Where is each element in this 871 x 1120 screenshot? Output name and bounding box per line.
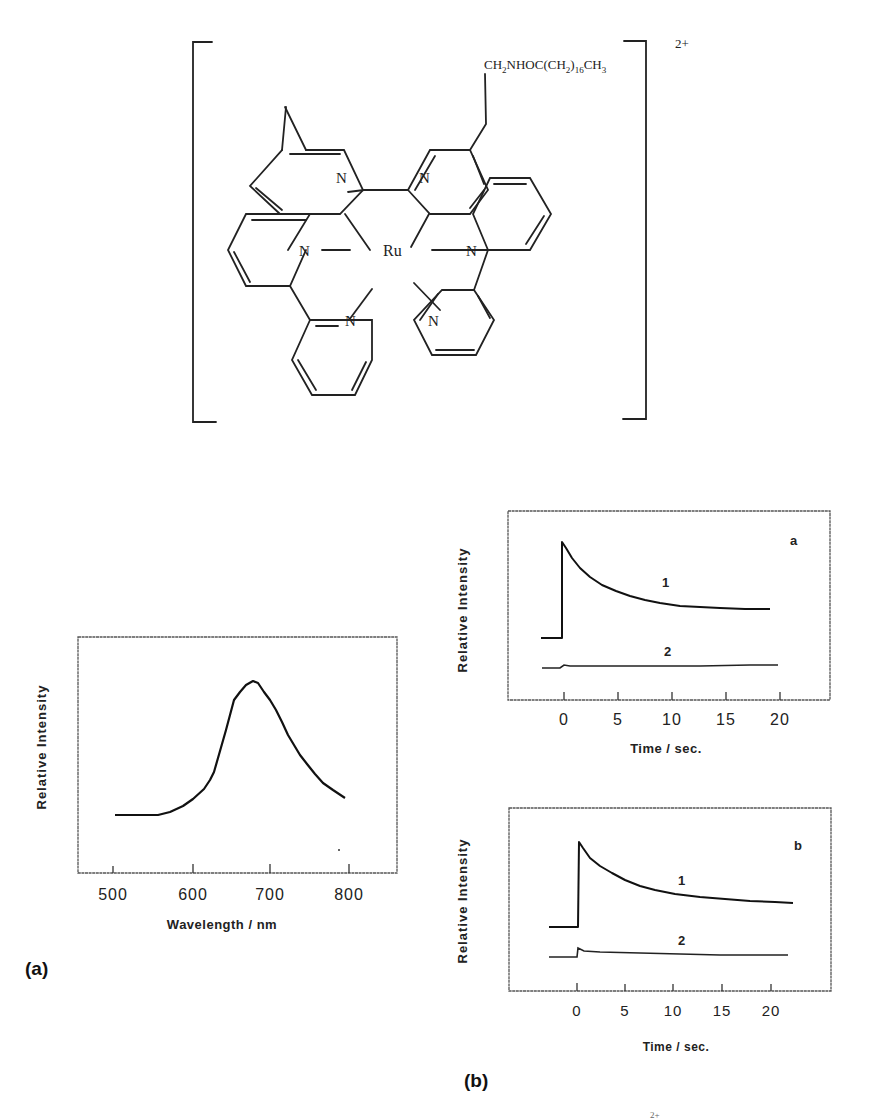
x-tick-label: 15: [713, 1002, 732, 1019]
x-tick-label: 0: [559, 711, 569, 729]
nitrogen-label: N: [299, 243, 310, 259]
x-tick-label: 700: [255, 886, 285, 904]
figure-label-a: (a): [25, 958, 48, 980]
substituent-label: CH2NHOC(CH2)16CH3: [484, 57, 606, 75]
x-tick-label: 10: [662, 711, 682, 729]
series-label-2: 2: [664, 644, 671, 659]
x-tick-label: 15: [716, 711, 736, 729]
x-tick-label: 0: [572, 1002, 581, 1019]
y-axis-label: Relative Intensity: [34, 690, 49, 810]
structure-drawing: N N N N N N Ru: [0, 0, 871, 440]
figure-label-b: (b): [464, 1070, 488, 1092]
charge-label: 2+: [675, 36, 689, 52]
ruthenium-label: Ru: [383, 242, 402, 259]
panel-tag: b: [794, 838, 802, 853]
left-bracket: [193, 42, 216, 422]
y-axis-label: Relative Intensity: [455, 844, 470, 964]
x-tick-label: 5: [620, 1002, 629, 1019]
x-axis-label: Wavelength / nm: [167, 917, 277, 932]
trace-2: [549, 948, 788, 957]
nitrogen-label: N: [428, 313, 439, 329]
x-tick-label: 5: [613, 711, 623, 729]
cutoff-charge-fragment: 2+: [650, 1110, 660, 1120]
x-axis-label: Time / sec.: [643, 1040, 710, 1054]
nitrogen-label: N: [466, 243, 477, 259]
x-tick-label: 800: [334, 886, 364, 904]
emission-curve: [115, 681, 345, 815]
nitrogen-label: N: [419, 170, 430, 186]
x-axis-label: Time / sec.: [630, 741, 702, 756]
x-tick-label: 10: [664, 1002, 683, 1019]
plot-frame: [78, 637, 397, 873]
series-label-1: 1: [678, 873, 685, 888]
x-tick-label: 500: [98, 886, 128, 904]
x-tick-label: 20: [770, 711, 790, 729]
x-tick-label: 600: [178, 886, 208, 904]
series-label-1: 1: [662, 575, 669, 590]
panel-tag: a: [790, 533, 797, 548]
x-tick-label: 20: [762, 1002, 781, 1019]
nitrogen-label: N: [336, 170, 347, 186]
plot-frame: [508, 511, 830, 700]
y-axis-label: Relative Intensity: [455, 553, 470, 673]
right-bracket: [623, 41, 646, 419]
trace-2: [542, 665, 778, 668]
trace-1: [549, 842, 793, 927]
nitrogen-label: N: [345, 313, 356, 329]
plot-frame: [509, 808, 831, 991]
trace-1: [541, 542, 770, 638]
series-label-2: 2: [678, 933, 685, 948]
